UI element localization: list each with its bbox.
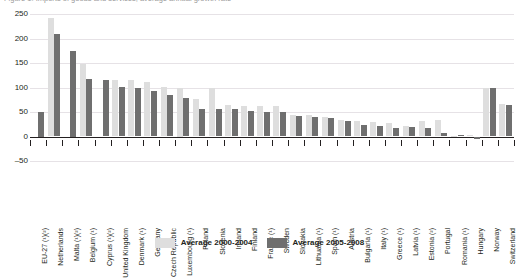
y-tick-label-0: 0 [2, 133, 28, 141]
bar[interactable] [345, 121, 351, 136]
chart-legend: Average 2000-2004 Average 2005-2008 [0, 236, 519, 250]
bar[interactable] [119, 87, 125, 136]
bar[interactable] [135, 88, 141, 136]
x-tick [191, 140, 192, 146]
bar[interactable] [183, 98, 189, 136]
x-tick [498, 140, 499, 146]
bar[interactable] [312, 117, 318, 137]
x-axis-ticks [30, 140, 514, 148]
bar[interactable] [264, 112, 270, 137]
bar[interactable] [86, 79, 92, 137]
bar[interactable] [257, 106, 263, 136]
bar[interactable] [441, 133, 447, 137]
legend-label-2000-2004: Average 2000-2004 [181, 238, 253, 248]
x-tick [207, 140, 208, 146]
bar[interactable] [209, 88, 215, 137]
bar[interactable] [103, 80, 109, 136]
x-tick [111, 140, 112, 146]
bar[interactable] [499, 104, 505, 136]
bar[interactable] [54, 34, 60, 137]
bar[interactable] [48, 18, 54, 136]
bar[interactable] [296, 116, 302, 137]
x-tick [127, 140, 128, 146]
legend-item-0[interactable]: Average 2000-2004 [155, 238, 253, 248]
bar[interactable] [248, 111, 254, 137]
x-tick [449, 140, 450, 146]
y-tick-label-50: 50 [2, 108, 28, 116]
bar[interactable] [70, 51, 76, 137]
x-tick [401, 140, 402, 146]
bar[interactable] [167, 95, 173, 137]
bar[interactable] [177, 88, 183, 137]
bar[interactable] [451, 136, 457, 137]
x-tick [62, 140, 63, 146]
x-tick [433, 140, 434, 146]
bar[interactable] [425, 128, 431, 136]
bar[interactable] [161, 87, 167, 136]
bar[interactable] [409, 127, 415, 137]
bar[interactable] [193, 99, 199, 137]
x-tick [320, 140, 321, 146]
chart-title: Figure 1: Imports of goods and services,… [4, 0, 504, 3]
bar[interactable] [370, 122, 376, 136]
bar[interactable] [144, 82, 150, 136]
y-tick-label-150: 150 [2, 59, 28, 67]
y-tick-label-200: 200 [2, 35, 28, 43]
x-tick [30, 140, 31, 146]
bar[interactable] [80, 64, 86, 137]
bar[interactable] [273, 106, 279, 137]
bar[interactable] [419, 121, 425, 137]
x-tick [466, 140, 467, 146]
bar[interactable] [128, 80, 134, 136]
bar[interactable] [338, 120, 344, 137]
bar[interactable] [403, 126, 409, 136]
bar[interactable] [232, 109, 238, 136]
bar[interactable] [241, 106, 247, 137]
legend-swatch-2000-2004 [155, 238, 175, 248]
bar[interactable] [483, 88, 489, 137]
bar[interactable] [458, 135, 464, 137]
bar[interactable] [361, 125, 367, 137]
x-tick [159, 140, 160, 146]
bar[interactable] [306, 115, 312, 136]
bar[interactable] [467, 135, 473, 136]
x-tick [353, 140, 354, 146]
bar[interactable] [322, 117, 328, 136]
bar[interactable] [393, 128, 399, 137]
bar[interactable] [435, 120, 441, 136]
y-tick-label-250: 250 [2, 10, 28, 18]
x-tick [369, 140, 370, 146]
x-tick [288, 140, 289, 146]
bar[interactable] [216, 109, 222, 137]
x-tick [337, 140, 338, 146]
bar[interactable] [354, 121, 360, 137]
plot-area [30, 14, 514, 161]
bar[interactable] [225, 105, 231, 136]
bar-series-container [30, 14, 514, 161]
bar[interactable] [112, 80, 118, 136]
bar[interactable] [377, 126, 383, 136]
bar[interactable] [490, 88, 496, 137]
x-tick [272, 140, 273, 146]
x-tick [224, 140, 225, 146]
bar[interactable] [506, 105, 512, 136]
x-tick [78, 140, 79, 146]
bar[interactable] [38, 112, 44, 137]
bar[interactable] [386, 123, 392, 137]
bar[interactable] [474, 137, 480, 139]
legend-item-1[interactable]: Average 2005-2008 [267, 238, 365, 248]
x-tick [175, 140, 176, 146]
legend-swatch-2005-2008 [267, 238, 287, 248]
bar[interactable] [151, 91, 157, 137]
x-axis-labels: EU-27 (¹)(²)NetherlandsMalta (¹)(²)Belgi… [30, 150, 514, 230]
bar[interactable] [290, 115, 296, 136]
legend-label-2005-2008: Average 2005-2008 [293, 238, 365, 248]
bar[interactable] [280, 112, 286, 136]
x-tick [143, 140, 144, 146]
x-tick [514, 140, 515, 146]
x-tick [482, 140, 483, 146]
bar[interactable] [328, 118, 334, 136]
bar[interactable] [199, 109, 205, 137]
x-tick [304, 140, 305, 146]
